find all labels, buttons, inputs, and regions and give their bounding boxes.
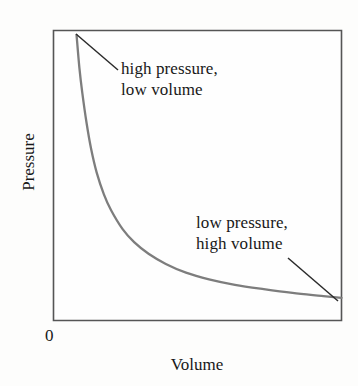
y-axis-label: Pressure — [19, 115, 39, 209]
annotation-low-pressure-line-2: high volume — [196, 233, 288, 254]
annotation-low-pressure-line-1: low pressure, — [196, 212, 288, 233]
x-axis-label: Volume — [138, 355, 256, 375]
annotation-low-pressure: low pressure, high volume — [196, 212, 288, 254]
annotation-high-pressure-line-1: high pressure, — [121, 58, 218, 79]
axis-origin-label: 0 — [45, 326, 54, 346]
annotation-high-pressure-line-2: low volume — [121, 79, 218, 100]
annotation-high-pressure: high pressure, low volume — [121, 58, 218, 100]
pressure-volume-figure: high pressure, low volume low pressure, … — [0, 0, 358, 386]
